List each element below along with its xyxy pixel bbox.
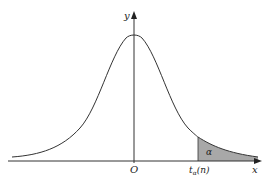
y-axis-label: y — [123, 10, 130, 21]
y-axis-arrow-icon — [131, 11, 137, 19]
critical-value-label: tα(n) — [189, 165, 210, 176]
tail-area-label: α — [206, 147, 212, 157]
x-axis-label: x — [252, 164, 258, 175]
density-curve — [12, 35, 258, 157]
t-distribution-diagram: y x O α tα(n) — [0, 0, 268, 180]
origin-label: O — [130, 164, 138, 175]
